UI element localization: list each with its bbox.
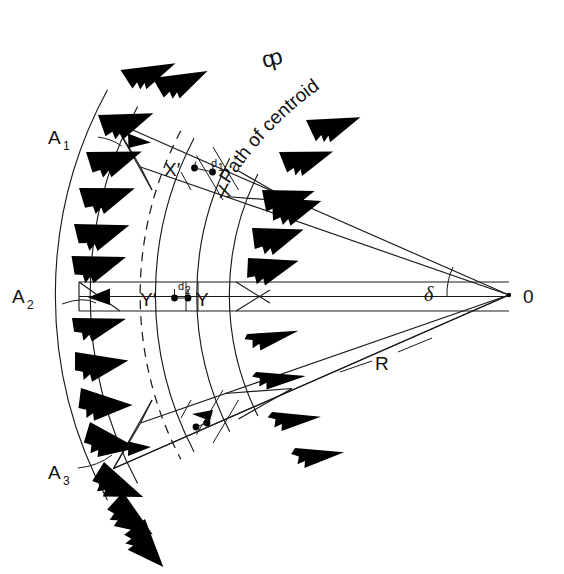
label-a1-subscript: 1: [63, 139, 70, 153]
inner-hatch-flags: [243, 94, 362, 482]
section-a1-line-bottom: [141, 167, 510, 295]
diagram-canvas: Path of centroid A 1 A 2 A 3 X′ X d 1 Y′…: [0, 0, 564, 574]
radius-line: [114, 295, 510, 469]
hatch-flag: [243, 322, 298, 357]
arrowhead-a1: [128, 134, 151, 149]
a3-far-diagonal-b: [225, 389, 292, 394]
label-d2-letter: d: [178, 280, 184, 292]
leader-a1: [98, 137, 122, 146]
label-d2-subscript: 2: [185, 285, 191, 296]
curve-diagram-svg: Path of centroid A 1 A 2 A 3 X′ X d 1 Y′…: [0, 0, 564, 574]
label-delta-angle: δ: [424, 283, 434, 305]
label-x-prime: X′: [164, 159, 181, 180]
label-y-prime: Y′: [140, 289, 157, 310]
hatch-flag: [79, 178, 138, 217]
label-a2-letter: A: [12, 286, 25, 307]
arrowhead-a3-inner: [192, 410, 213, 421]
label-origin: 0: [523, 286, 534, 307]
label-a1-letter: A: [48, 127, 61, 148]
hatch-flag: [74, 388, 133, 428]
label-a1: A 1: [48, 127, 70, 153]
hatch-flag: [250, 217, 308, 259]
label-d1-letter: d: [211, 157, 217, 169]
label-leaders: [62, 137, 122, 468]
inner-hatch-arc: [229, 174, 258, 416]
label-a3-letter: A: [48, 462, 61, 483]
hatch-flag: [288, 430, 344, 481]
hatch-flag: [250, 362, 306, 399]
label-a2: A 2: [12, 286, 34, 312]
hatch-flag: [70, 315, 126, 344]
hatch-flag: [265, 398, 321, 442]
radius-leader-right: [398, 338, 432, 352]
section-a3-line-top: [141, 295, 510, 423]
centre-line-symbol: ȹ: [259, 43, 285, 73]
label-radius: R: [375, 353, 389, 374]
hatch-flag: [303, 94, 362, 149]
label-a3-subscript: 3: [63, 474, 70, 488]
hatch-flag: [74, 219, 131, 253]
label-y: Y: [196, 289, 209, 310]
centre-of-curvature-point: [507, 293, 511, 297]
hatch-flag: [151, 50, 211, 105]
tick-a3-mid3: [213, 400, 239, 443]
hatch-flag: [72, 254, 127, 284]
label-a2-subscript: 2: [27, 298, 34, 312]
label-d1-subscript: 1: [218, 162, 224, 173]
label-a3: A 3: [48, 462, 70, 488]
hatch-flag: [277, 129, 337, 181]
